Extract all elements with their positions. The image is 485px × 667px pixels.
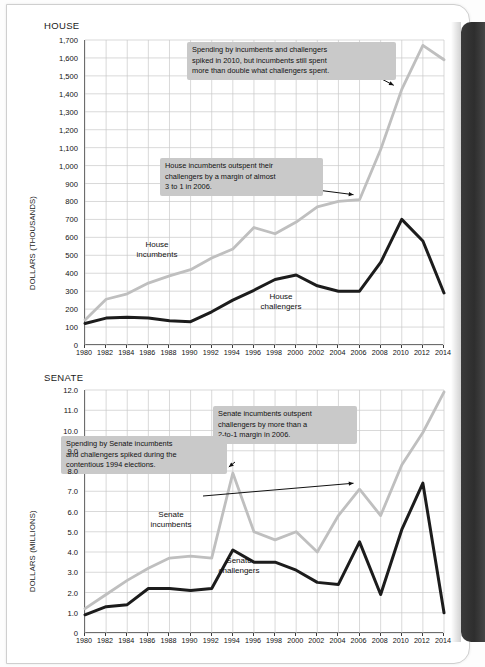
- x-tick-mark: [147, 345, 148, 348]
- y-tick-label: 200: [36, 305, 78, 314]
- x-tick-label: 2006: [351, 348, 367, 357]
- senate-chart: SENATE DOLLARS (MILLIONS) Senate incumbe…: [0, 360, 485, 667]
- y-tick-label: 100: [36, 323, 78, 332]
- y-tick-label: 8.0: [36, 467, 78, 476]
- x-tick-label: 2012: [414, 348, 430, 357]
- y-tick-label: 2.0: [36, 588, 78, 597]
- page-shadow: [451, 22, 461, 642]
- y-tick-label: 6.0: [36, 507, 78, 516]
- x-tick-mark: [443, 345, 444, 348]
- y-tick-label: 900: [36, 179, 78, 188]
- y-tick-label: 1,200: [36, 125, 78, 134]
- x-tick-mark: [337, 345, 338, 348]
- x-tick-mark: [359, 633, 360, 636]
- y-tick-label: 1,400: [36, 89, 78, 98]
- x-tick-label: 1990: [182, 636, 198, 645]
- x-tick-label: 1998: [266, 348, 282, 357]
- x-tick-label: 2014: [435, 348, 451, 357]
- x-tick-label: 2004: [329, 348, 345, 357]
- y-tick-label: 3.0: [36, 568, 78, 577]
- x-tick-mark: [211, 633, 212, 636]
- x-tick-mark: [168, 633, 169, 636]
- x-tick-label: 2012: [414, 636, 430, 645]
- house-callout-2006: House incumbents outspent their challeng…: [160, 158, 323, 196]
- annotation-arrow: [229, 462, 235, 467]
- y-tick-label: 800: [36, 197, 78, 206]
- x-tick-label: 2004: [329, 636, 345, 645]
- y-tick-label: 300: [36, 287, 78, 296]
- x-tick-mark: [380, 345, 381, 348]
- x-tick-label: 2000: [287, 348, 303, 357]
- x-tick-mark: [443, 633, 444, 636]
- x-tick-mark: [147, 633, 148, 636]
- y-tick-label: 1,500: [36, 71, 78, 80]
- x-tick-mark: [105, 345, 106, 348]
- x-tick-mark: [422, 633, 423, 636]
- x-tick-mark: [232, 633, 233, 636]
- x-tick-label: 1980: [76, 348, 92, 357]
- y-tick-label: 4.0: [36, 548, 78, 557]
- x-tick-label: 1986: [139, 636, 155, 645]
- x-tick-mark: [232, 345, 233, 348]
- y-tick-label: 1,600: [36, 53, 78, 62]
- y-tick-label: 12.0: [36, 386, 78, 395]
- senate-incumbents-label: Senate incumbents: [134, 510, 208, 530]
- series-line: [85, 483, 444, 615]
- x-tick-label: 1992: [203, 636, 219, 645]
- y-tick-label: 1,000: [36, 161, 78, 170]
- x-tick-label: 1994: [224, 348, 240, 357]
- x-tick-mark: [380, 633, 381, 636]
- x-tick-label: 1996: [245, 636, 261, 645]
- x-tick-label: 1980: [76, 636, 92, 645]
- senate-callout-1994: Spending by Senate incumbents and challe…: [61, 436, 227, 474]
- senate-challengers-label: Senate challengers: [200, 556, 278, 576]
- house-incumbents-label: House incumbents: [124, 240, 190, 260]
- y-tick-label: 500: [36, 251, 78, 260]
- annotation-arrow: [203, 482, 354, 496]
- x-tick-mark: [316, 633, 317, 636]
- book-spine: [461, 22, 485, 642]
- x-tick-label: 1984: [118, 348, 134, 357]
- x-tick-mark: [337, 633, 338, 636]
- house-chart-title: HOUSE: [44, 20, 80, 31]
- x-tick-label: 1992: [203, 348, 219, 357]
- y-tick-label: 11.0: [36, 406, 78, 415]
- x-tick-mark: [253, 345, 254, 348]
- x-tick-mark: [316, 345, 317, 348]
- x-tick-mark: [274, 345, 275, 348]
- x-tick-mark: [168, 345, 169, 348]
- x-tick-label: 1982: [97, 348, 113, 357]
- x-tick-label: 2010: [393, 636, 409, 645]
- y-tick-label: 700: [36, 215, 78, 224]
- y-tick-label: 1,100: [36, 143, 78, 152]
- senate-chart-title: SENATE: [44, 372, 83, 383]
- x-tick-mark: [359, 345, 360, 348]
- x-tick-mark: [190, 345, 191, 348]
- x-tick-mark: [401, 345, 402, 348]
- y-tick-label: 7.0: [36, 487, 78, 496]
- x-tick-mark: [211, 345, 212, 348]
- scanned-page: HOUSE DOLLARS (THOUSANDS) Spending by in…: [0, 0, 485, 667]
- x-tick-label: 1994: [224, 636, 240, 645]
- x-tick-mark: [84, 633, 85, 636]
- x-tick-label: 1990: [182, 348, 198, 357]
- x-tick-mark: [190, 633, 191, 636]
- senate-callout-2006: Senate incumbents outspent challengers b…: [213, 406, 357, 444]
- x-tick-mark: [422, 345, 423, 348]
- x-tick-label: 1982: [97, 636, 113, 645]
- y-tick-label: 400: [36, 269, 78, 278]
- x-tick-label: 1996: [245, 348, 261, 357]
- x-tick-label: 2008: [372, 636, 388, 645]
- x-tick-label: 2014: [435, 636, 451, 645]
- x-tick-label: 1984: [118, 636, 134, 645]
- x-tick-mark: [274, 633, 275, 636]
- x-tick-mark: [295, 633, 296, 636]
- x-tick-label: 1986: [139, 348, 155, 357]
- x-tick-label: 1988: [160, 636, 176, 645]
- x-tick-label: 2002: [308, 636, 324, 645]
- y-tick-label: 1.0: [36, 608, 78, 617]
- x-tick-label: 2000: [287, 636, 303, 645]
- x-tick-mark: [253, 633, 254, 636]
- y-tick-label: 10.0: [36, 426, 78, 435]
- x-tick-mark: [401, 633, 402, 636]
